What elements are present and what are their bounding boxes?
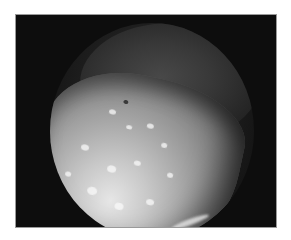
endoscope-image-frame (15, 14, 277, 228)
nodule-highlight (133, 160, 141, 166)
nodule-highlight (109, 109, 117, 115)
nodule-highlight (146, 198, 155, 206)
endoscope-field-of-view (50, 23, 254, 228)
nodule-highlight (161, 142, 168, 148)
nodule-highlight (114, 202, 124, 211)
nodule-highlight (146, 123, 154, 129)
nodule-highlight (86, 186, 97, 196)
nodule-highlight (106, 165, 116, 174)
dark-lesion-spot (123, 100, 129, 105)
image-canvas (0, 0, 291, 240)
nodule-highlight (65, 171, 72, 177)
nodule-highlight (80, 144, 89, 152)
nodule-highlight (126, 125, 133, 130)
nodule-highlight (167, 172, 174, 178)
